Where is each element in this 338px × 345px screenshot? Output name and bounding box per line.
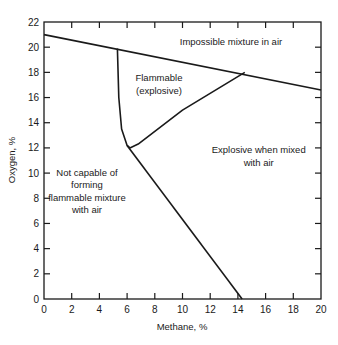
y-tick-label: 6 [33, 218, 39, 229]
y-tick-label: 0 [33, 294, 39, 305]
x-tick-label: 18 [288, 304, 300, 315]
y-tick-label: 14 [28, 117, 40, 128]
region-label: Explosive when mixed [212, 144, 306, 155]
x-tick-label: 10 [177, 304, 189, 315]
x-tick-label: 14 [232, 304, 244, 315]
x-axis-label: Methane, % [157, 321, 208, 332]
region-label: with air [243, 157, 274, 168]
y-axis-ticks: 0246810121416182022 [28, 17, 321, 305]
y-tick-label: 20 [28, 42, 40, 53]
y-tick-label: 16 [28, 92, 40, 103]
x-tick-label: 12 [205, 304, 217, 315]
lower-limit-boundary [117, 48, 129, 147]
region-label: Not capable of [56, 167, 118, 178]
upper-limit-boundary [130, 72, 245, 147]
region-label: forming [71, 179, 103, 190]
x-tick-label: 16 [260, 304, 272, 315]
region-label: Flammable [135, 72, 182, 83]
y-tick-label: 12 [28, 142, 40, 153]
plot-frame [44, 22, 321, 299]
x-tick-label: 4 [97, 304, 103, 315]
x-tick-label: 8 [152, 304, 158, 315]
y-axis-label: Oxygen, % [6, 136, 17, 183]
x-tick-label: 20 [315, 304, 327, 315]
region-label: with air [71, 204, 102, 215]
x-tick-label: 6 [124, 304, 130, 315]
y-tick-label: 4 [33, 243, 39, 254]
region-label: Impossible mixture in air [180, 36, 282, 47]
y-tick-label: 18 [28, 67, 40, 78]
region-label: flammable mixture [48, 192, 126, 203]
y-tick-label: 10 [28, 168, 40, 179]
x-tick-label: 2 [69, 304, 75, 315]
y-tick-label: 22 [28, 17, 40, 28]
nose-limit-line [127, 145, 242, 299]
region-labels: Impossible mixture in airFlammable(explo… [48, 36, 306, 216]
y-tick-label: 2 [33, 268, 39, 279]
flammability-diagram: 02468101214161820 0246810121416182022 Im… [0, 0, 338, 345]
x-tick-label: 0 [41, 304, 47, 315]
y-tick-label: 8 [33, 193, 39, 204]
region-label: (explosive) [136, 85, 182, 96]
